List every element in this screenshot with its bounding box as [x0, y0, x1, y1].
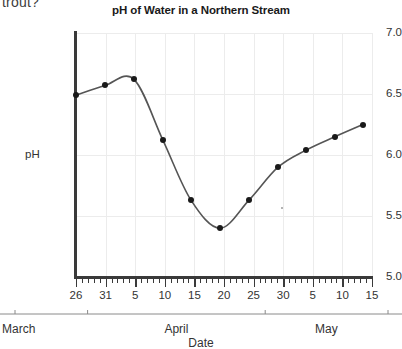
- x-major-tick: [165, 278, 166, 287]
- x-minor-tick: [183, 278, 184, 283]
- y-tick-label: 6.5: [332, 87, 402, 99]
- x-minor-tick: [171, 278, 172, 283]
- x-minor-tick: [360, 278, 361, 283]
- x-minor-tick: [159, 278, 160, 283]
- gridline-vertical: [165, 33, 166, 277]
- x-tick-label: 31: [91, 289, 121, 301]
- x-minor-tick: [147, 278, 148, 283]
- x-minor-tick: [212, 278, 213, 283]
- x-minor-tick: [319, 278, 320, 283]
- gridline-vertical: [254, 33, 255, 277]
- y-tick-label: 7.0: [332, 26, 402, 38]
- x-minor-tick: [188, 278, 189, 283]
- x-minor-tick: [100, 278, 101, 283]
- month-bracket-band: [0, 310, 402, 324]
- x-major-tick: [283, 278, 284, 287]
- x-axis-title: Date: [0, 336, 402, 349]
- month-label: May: [315, 322, 338, 336]
- x-major-tick: [194, 278, 195, 287]
- x-minor-tick: [348, 278, 349, 283]
- x-tick-label: 26: [61, 289, 91, 301]
- x-minor-tick: [153, 278, 154, 283]
- month-label: March: [2, 322, 35, 336]
- gridline-vertical: [283, 33, 284, 277]
- x-major-tick: [135, 278, 136, 287]
- x-major-tick: [76, 278, 77, 287]
- chart-title: pH of Water in a Northern Stream: [0, 4, 402, 16]
- y-axis-line: [74, 31, 77, 279]
- x-major-tick: [106, 278, 107, 287]
- x-minor-tick: [354, 278, 355, 283]
- x-tick-label: 30: [268, 289, 298, 301]
- x-tick-label: 15: [179, 289, 209, 301]
- x-minor-tick: [271, 278, 272, 283]
- x-minor-tick: [295, 278, 296, 283]
- x-minor-tick: [123, 278, 124, 283]
- x-major-tick: [342, 278, 343, 287]
- x-minor-tick: [366, 278, 367, 283]
- x-minor-tick: [336, 278, 337, 283]
- x-minor-tick: [112, 278, 113, 283]
- month-brackets: [0, 310, 402, 324]
- x-minor-tick: [331, 278, 332, 283]
- x-tick-label: 5: [298, 289, 328, 301]
- x-minor-tick: [88, 278, 89, 283]
- x-minor-tick: [277, 278, 278, 283]
- x-minor-tick: [129, 278, 130, 283]
- x-minor-tick: [260, 278, 261, 283]
- x-minor-tick: [307, 278, 308, 283]
- x-minor-tick: [200, 278, 201, 283]
- plot-area: [76, 33, 372, 277]
- x-minor-tick: [230, 278, 231, 283]
- y-axis-title: pH: [25, 148, 40, 160]
- x-minor-tick: [265, 278, 266, 283]
- x-minor-tick: [325, 278, 326, 283]
- x-minor-tick: [94, 278, 95, 283]
- month-label: April: [164, 322, 188, 336]
- x-minor-tick: [117, 278, 118, 283]
- x-minor-tick: [248, 278, 249, 283]
- gridline-vertical: [106, 33, 107, 277]
- x-minor-tick: [82, 278, 83, 283]
- x-major-tick: [372, 278, 373, 287]
- x-tick-label: 5: [120, 289, 150, 301]
- x-major-tick: [313, 278, 314, 287]
- x-minor-tick: [218, 278, 219, 283]
- gridline-vertical: [135, 33, 136, 277]
- gridline-vertical: [313, 33, 314, 277]
- x-major-tick: [254, 278, 255, 287]
- x-minor-tick: [236, 278, 237, 283]
- x-minor-tick: [177, 278, 178, 283]
- x-tick-label: 15: [357, 289, 387, 301]
- x-tick-label: 20: [209, 289, 239, 301]
- x-tick-label: 10: [327, 289, 357, 301]
- gridline-vertical: [224, 33, 225, 277]
- x-minor-tick: [141, 278, 142, 283]
- x-tick-label: 25: [239, 289, 269, 301]
- x-minor-tick: [289, 278, 290, 283]
- x-major-tick: [224, 278, 225, 287]
- x-tick-label: 10: [150, 289, 180, 301]
- y-tick-label: 5.5: [332, 209, 402, 221]
- gridline-vertical: [194, 33, 195, 277]
- y-tick-label: 6.0: [332, 148, 402, 160]
- x-minor-tick: [206, 278, 207, 283]
- x-minor-tick: [301, 278, 302, 283]
- x-minor-tick: [242, 278, 243, 283]
